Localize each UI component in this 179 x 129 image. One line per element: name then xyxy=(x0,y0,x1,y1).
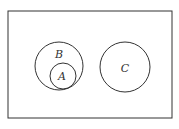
venn-diagram: B A C xyxy=(0,0,179,129)
set-a-label: A xyxy=(57,70,66,83)
set-c-label: C xyxy=(121,62,130,75)
universe-rectangle xyxy=(8,11,172,118)
set-b-label: B xyxy=(54,48,63,61)
